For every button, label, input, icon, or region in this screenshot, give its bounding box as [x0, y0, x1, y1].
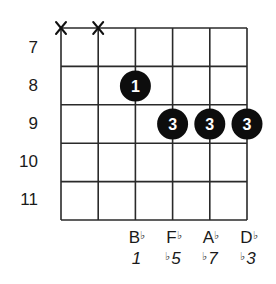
finger-number: 3	[168, 116, 177, 133]
interval-label: ♭7	[192, 246, 228, 269]
note-name: D♭	[231, 225, 267, 248]
interval-number: 3	[246, 249, 255, 268]
note-name: B♭	[119, 225, 155, 248]
flat-symbol: ♭	[177, 229, 182, 241]
flat-symbol: ♭	[240, 250, 245, 262]
finger-number: 3	[243, 116, 252, 133]
finger-dot: 1	[120, 71, 151, 102]
note-letter: F	[166, 228, 176, 247]
fret-label-8: 8	[8, 76, 38, 96]
flat-symbol: ♭	[253, 229, 258, 241]
flat-symbol: ♭	[202, 250, 207, 262]
fret-label-7: 7	[8, 38, 38, 58]
note-letter: D	[240, 228, 252, 247]
finger-number: 3	[205, 116, 214, 133]
fret-label-11: 11	[8, 190, 38, 210]
flat-symbol: ♭	[140, 229, 145, 241]
note-name: F♭	[156, 225, 192, 248]
interval-label: ♭5	[155, 246, 191, 269]
interval-label: 1	[118, 246, 154, 269]
interval-number: 7	[208, 249, 217, 268]
fret-label-10: 10	[8, 152, 38, 172]
interval-number: 1	[132, 249, 141, 268]
flat-symbol: ♭	[214, 229, 219, 241]
note-letter: A	[203, 228, 214, 247]
interval-number: 5	[171, 249, 180, 268]
fret-label-9: 9	[8, 114, 38, 134]
finger-dot: 3	[232, 109, 263, 140]
interval-label: ♭3	[230, 246, 266, 269]
note-letter: B	[129, 228, 140, 247]
note-name: A♭	[193, 225, 229, 248]
finger-dot: 3	[194, 109, 225, 140]
finger-number: 1	[131, 78, 140, 95]
finger-dot: 3	[157, 109, 188, 140]
chord-diagram: 1 3 3 3 7 8 9 10 11 B♭ F♭ A♭ D♭ 1 ♭5 ♭7 …	[0, 0, 276, 284]
flat-symbol: ♭	[165, 250, 170, 262]
